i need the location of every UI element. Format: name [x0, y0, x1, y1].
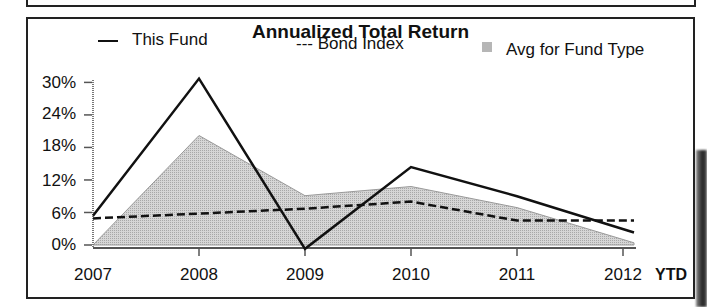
- x-tick-label: 2011: [487, 265, 547, 285]
- x-tick-label: 2008: [169, 265, 229, 285]
- x-tick-label: 2010: [381, 265, 441, 285]
- x-tick-label: 2012: [593, 265, 653, 285]
- ytd-label: YTD: [655, 266, 687, 284]
- x-tick-label: 2007: [63, 265, 123, 285]
- plot-area: [0, 0, 707, 307]
- avg-fund-type-area: [93, 136, 634, 246]
- x-tick-label: 2009: [275, 265, 335, 285]
